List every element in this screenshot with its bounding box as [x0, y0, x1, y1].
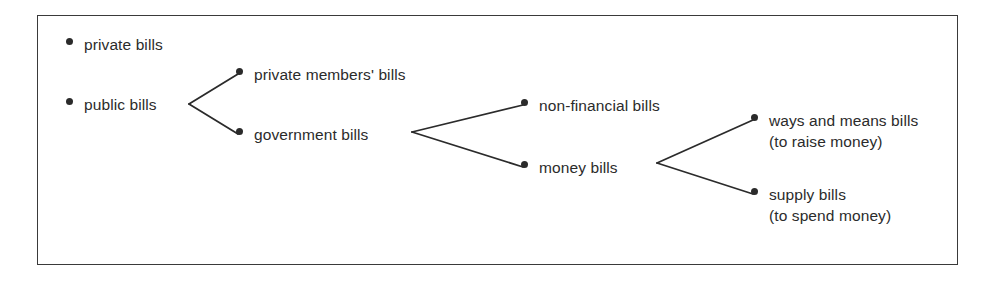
- node-label-private-bills: private bills: [84, 34, 163, 55]
- diagram-page: private billspublic billsprivate members…: [0, 0, 999, 285]
- node-label-primary: government bills: [254, 126, 368, 143]
- node-label-supply-bills: supply bills(to spend money): [769, 184, 891, 226]
- node-bullet-government-bills: [236, 128, 243, 135]
- node-label-secondary: (to raise money): [769, 131, 918, 152]
- node-bullet-ways-and-means-bills: [751, 114, 758, 121]
- node-label-private-members-bills: private members' bills: [254, 64, 406, 85]
- node-label-government-bills: government bills: [254, 124, 368, 145]
- node-label-secondary: (to spend money): [769, 205, 891, 226]
- node-label-ways-and-means-bills: ways and means bills(to raise money): [769, 110, 918, 152]
- node-label-money-bills: money bills: [539, 157, 618, 178]
- node-label-primary: private members' bills: [254, 66, 406, 83]
- node-label-primary: non-financial bills: [539, 97, 660, 114]
- node-label-non-financial-bills: non-financial bills: [539, 95, 660, 116]
- node-label-primary: ways and means bills: [769, 112, 918, 129]
- node-label-primary: money bills: [539, 159, 618, 176]
- node-label-public-bills: public bills: [84, 94, 157, 115]
- node-bullet-non-financial-bills: [521, 99, 528, 106]
- node-bullet-private-bills: [66, 38, 73, 45]
- node-label-primary: private bills: [84, 36, 163, 53]
- node-bullet-supply-bills: [751, 188, 758, 195]
- node-bullet-public-bills: [66, 98, 73, 105]
- node-label-primary: public bills: [84, 96, 157, 113]
- node-bullet-private-members-bills: [236, 68, 243, 75]
- node-bullet-money-bills: [521, 161, 528, 168]
- node-label-primary: supply bills: [769, 186, 846, 203]
